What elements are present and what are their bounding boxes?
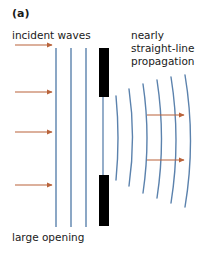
diffraction-figure: (a) incident waves nearly straight-line … (0, 0, 206, 259)
incident-wavefronts (56, 48, 86, 227)
transmitted-wavefront-2 (129, 89, 133, 186)
diffraction-diagram (0, 0, 206, 259)
transmitted-wavefront-6 (185, 75, 191, 207)
incident-arrows (15, 45, 52, 185)
transmitted-wavefront-5 (171, 77, 176, 203)
transmitted-wavefronts (116, 75, 191, 207)
upper-barrier (99, 48, 109, 97)
transmitted-wavefront-3 (143, 84, 147, 193)
transmitted-wavefront-4 (157, 80, 162, 198)
transmitted-wavefront-1 (116, 96, 118, 180)
lower-barrier (99, 175, 109, 226)
transmitted-arrows (147, 115, 184, 160)
barrier (99, 48, 109, 226)
